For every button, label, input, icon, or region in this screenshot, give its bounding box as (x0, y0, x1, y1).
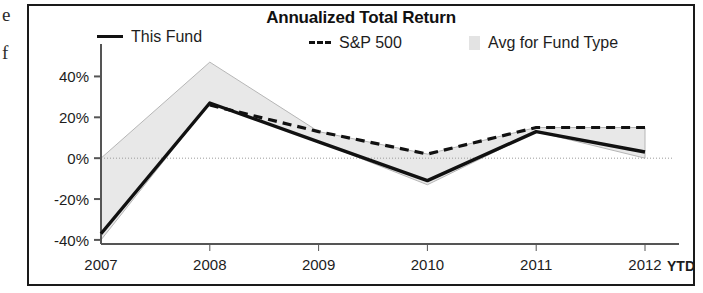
x-axis-tick-label: 2008 (193, 256, 226, 273)
x-axis-tick-label: 2012 (628, 256, 661, 273)
plot-area (29, 6, 693, 284)
chart-container: Annualized Total Return This Fund S&P 50… (27, 4, 695, 286)
x-axis-tick-label: 2010 (411, 256, 444, 273)
x-axis-ytd-label: YTD (667, 258, 695, 274)
x-axis-tick-label: 2009 (302, 256, 335, 273)
y-axis-tick-label: 40% (29, 68, 89, 85)
x-axis-tick-label: 2011 (520, 256, 552, 273)
x-axis-tick-label: 2007 (84, 256, 117, 273)
page-margin-glyph-2: f (2, 42, 8, 64)
y-axis-tick-label: -20% (29, 191, 89, 208)
avg-fund-type-band (101, 62, 645, 240)
y-axis-tick-label: 0% (29, 150, 89, 167)
y-axis-tick-label: 20% (29, 109, 89, 126)
page-margin-glyph-1: e (2, 4, 10, 26)
y-axis-tick-label: -40% (29, 231, 89, 248)
